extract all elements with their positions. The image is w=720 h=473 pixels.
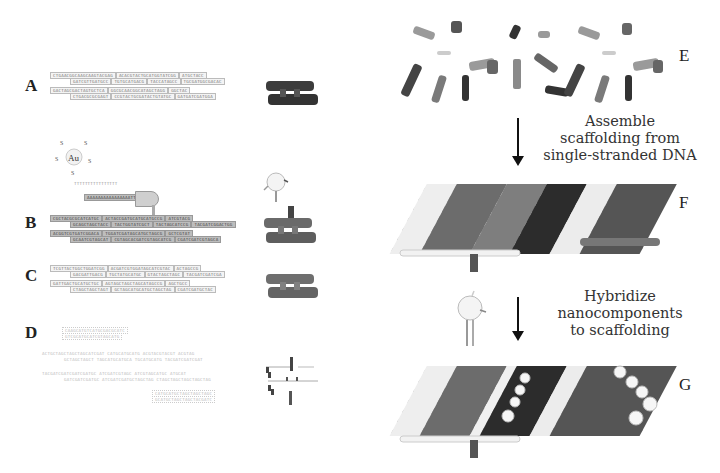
dna-strand: TACGATCGATCGAT bbox=[165, 357, 203, 362]
dna-strand: GATCGTTGATGCC bbox=[70, 78, 111, 85]
svg-text:Au: Au bbox=[68, 153, 79, 163]
hairpin-loop bbox=[135, 191, 159, 207]
dna-strand: TGCTATGCATGC bbox=[106, 271, 145, 278]
step-2-caption: Hybridize nanocomponents to scaffolding bbox=[520, 288, 720, 339]
panel-d-top-probe: CAAGCATGTCATGCGACGCATC GTCGCATGCATCGTAGC… bbox=[62, 328, 128, 340]
panel-label-g: G bbox=[679, 375, 691, 395]
dna-strand: CTGACGCGCGAGT bbox=[70, 93, 111, 100]
hairpin-strand: AAAAAAAAAAAAAAAATTG bbox=[84, 195, 142, 201]
dna-scaffold-g-illustration bbox=[380, 360, 680, 460]
panel-label-a: A bbox=[25, 76, 37, 96]
dna-strand: ACTGCTAGCTAGCTAGCATCGAT bbox=[42, 351, 105, 356]
dna-strand: GATCGATCGATGC bbox=[64, 377, 99, 382]
dna-strand: GTCGCATGCATCGTAGCATG bbox=[62, 333, 122, 340]
down-arrow-icon bbox=[517, 297, 519, 333]
panel-b-sequences: CGCTACGCGCATCATGCACTACCGATGCATGCATGCCGAT… bbox=[50, 216, 236, 243]
dna-strand: TGCATGCATG bbox=[135, 357, 162, 362]
caption-line: Assemble bbox=[520, 113, 720, 130]
dna-strand: CTAGCTAGCTAGT bbox=[70, 286, 111, 293]
dna-strand: ATCGTAGCATGC bbox=[135, 371, 168, 376]
dna-strand: TACGATCGATCGATCGATGC bbox=[42, 371, 96, 376]
caption-line: to scaffolding bbox=[520, 322, 720, 339]
dna-strand: TAGCATGCATGCA bbox=[97, 357, 132, 362]
gold-nanoparticle-icon: Au S S S S S bbox=[52, 137, 102, 179]
dna-strand: GCAATCGTAGCAT bbox=[70, 236, 111, 243]
caption-line: scaffolding from bbox=[520, 130, 720, 147]
dna-strand: CTAGCTAGCTAGCTAGCTAG bbox=[157, 377, 211, 382]
svg-text:S: S bbox=[71, 170, 74, 176]
svg-text:S: S bbox=[55, 156, 58, 162]
caption-line: single-stranded DNA bbox=[520, 147, 720, 164]
dna-strand: TACCATAGCC bbox=[147, 78, 180, 85]
dna-strand: TGCGATGGCGACAC bbox=[181, 78, 225, 85]
dna-strand: CATGCATGCATG bbox=[107, 351, 140, 356]
panel-label-e: E bbox=[679, 46, 689, 66]
caption-line: Hybridize bbox=[520, 288, 720, 305]
dna-strand: ATCGATCGATGCTAGCTAG bbox=[102, 377, 154, 382]
panel-label-f: F bbox=[679, 193, 688, 213]
caption-line: nanocomponents bbox=[520, 305, 720, 322]
dna-strand: GCATGCTAGCTAGCTACGATC bbox=[152, 396, 215, 403]
panel-a-sequences: CTGAACGGCAAGCAAGTACGAGACACGTACTGCATGGTAT… bbox=[50, 73, 225, 100]
svg-text:S: S bbox=[84, 140, 87, 146]
panel-d-bottom-probe: CATGCATGCTAGCTAGCTAGC GCATGCTAGCTAGCTACG… bbox=[152, 391, 215, 403]
dna-strand: CGATCGATGCTAC bbox=[175, 286, 216, 293]
single-stranded-dna-fragments-illustration bbox=[395, 15, 675, 105]
dna-strand: GCTAGCATGCATGCTAGCTAG bbox=[111, 286, 174, 293]
dna-strand: ATCGATCGTAGC bbox=[99, 371, 132, 376]
thiol-linker-strand: TTTTTTTTTTTTTTTT bbox=[74, 181, 118, 187]
dna-strand: CGTAGCACGATCGTAGCATCG bbox=[111, 236, 174, 243]
dna-strand: ATGCAT bbox=[170, 371, 186, 376]
dna-scaffold-f-illustration bbox=[380, 178, 680, 274]
step-1-caption: Assemble scaffolding from single-strande… bbox=[520, 113, 720, 164]
dna-tile-c-icon bbox=[262, 270, 322, 306]
panel-d-sequences: ACTGCTAGCTAGCTAGCATCGAT CATGCATGCATG ACG… bbox=[42, 351, 211, 383]
dna-strand: TACTAGCATCCG bbox=[153, 221, 192, 228]
dna-tile-a-icon bbox=[262, 75, 322, 111]
dna-tile-b-with-particle-icon bbox=[258, 170, 324, 250]
panel-c-sequences: TCGTTACTGGCTGGATCGGACGATCGTGGATAGCATCGTA… bbox=[50, 266, 225, 293]
dna-strand: ACGTACGTACGT bbox=[143, 351, 176, 356]
panel-label-b: B bbox=[25, 213, 36, 233]
dna-tile-d-skeleton-icon bbox=[262, 345, 322, 405]
dna-strand: TACTGGTATCGCT bbox=[111, 221, 152, 228]
dna-strand: GACGATTGACG bbox=[70, 271, 106, 278]
dna-strand: GCTAGCTAGCT bbox=[64, 357, 94, 362]
dna-strand: TGTGCATGACG bbox=[111, 78, 147, 85]
dna-strand: AAAAAAAAAAAAAAAATTG bbox=[84, 194, 142, 201]
nanocomponent-particle-icon bbox=[450, 290, 490, 350]
dna-strand: TACGATCGATCGA bbox=[183, 271, 224, 278]
dna-strand: CGATCGATCGTAGCA bbox=[175, 236, 222, 243]
dna-strand: GTACTAGCTAGC bbox=[145, 271, 184, 278]
panel-label-d: D bbox=[25, 323, 37, 343]
svg-text:S: S bbox=[60, 140, 63, 146]
dna-strand: TACGATCGGACTGG bbox=[191, 221, 235, 228]
down-arrow-icon bbox=[517, 118, 519, 158]
dna-strand: GATGATCGATGGA bbox=[175, 93, 216, 100]
panel-label-c: C bbox=[25, 266, 37, 286]
dna-strand: ACGTAG bbox=[178, 351, 194, 356]
svg-text:S: S bbox=[88, 158, 91, 164]
dna-strand: GCAGCTAGCTACC bbox=[70, 221, 111, 228]
dna-strand: CCGTACTGCGATACTGTATGC bbox=[111, 93, 174, 100]
